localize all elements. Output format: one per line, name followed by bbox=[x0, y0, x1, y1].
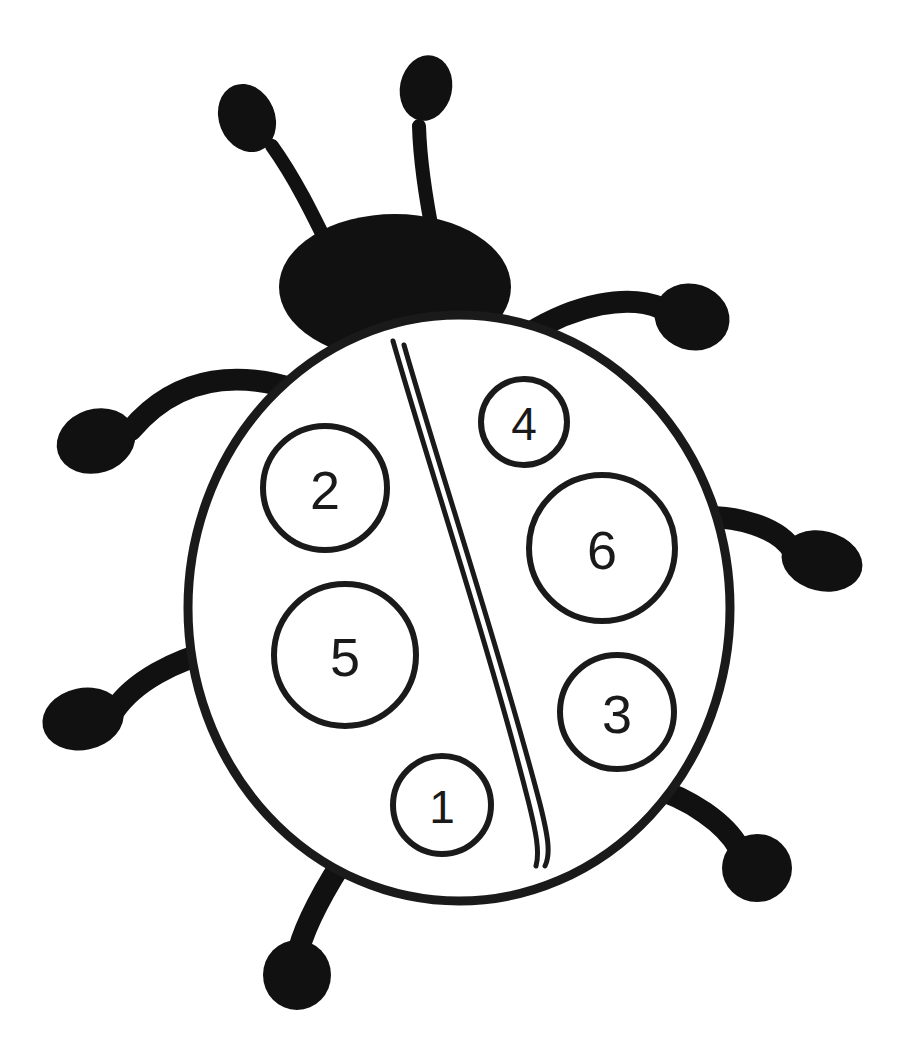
spot-5[interactable]: 5 bbox=[274, 584, 416, 726]
leg-upper-left-foot bbox=[48, 398, 144, 484]
antenna-right-knob bbox=[394, 50, 459, 125]
leg-lower-left bbox=[36, 651, 214, 758]
ladybug-illustration: 2 5 1 4 6 3 bbox=[0, 0, 910, 1063]
spot-3[interactable]: 3 bbox=[560, 655, 674, 769]
worksheet-canvas: 2 5 1 4 6 3 bbox=[0, 0, 910, 1063]
spot-2-label: 2 bbox=[310, 460, 340, 520]
spot-5-label: 5 bbox=[330, 627, 360, 687]
spot-4-label: 4 bbox=[511, 398, 537, 450]
antenna-right bbox=[394, 50, 459, 240]
spot-2[interactable]: 2 bbox=[263, 426, 387, 550]
leg-bottom-right-foot bbox=[722, 834, 792, 902]
spot-1-label: 1 bbox=[429, 781, 455, 833]
spot-6[interactable]: 6 bbox=[529, 475, 675, 621]
leg-bottom-right bbox=[650, 787, 792, 902]
leg-upper-right-foot bbox=[646, 274, 739, 360]
spot-1[interactable]: 1 bbox=[393, 756, 491, 854]
spot-4[interactable]: 4 bbox=[481, 379, 567, 465]
spot-3-label: 3 bbox=[602, 684, 632, 744]
leg-bottom-left-foot bbox=[263, 940, 331, 1010]
spot-6-label: 6 bbox=[587, 520, 617, 580]
antenna-left bbox=[208, 75, 331, 252]
